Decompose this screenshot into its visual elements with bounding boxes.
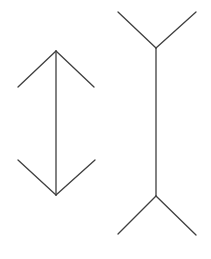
canvas-background bbox=[0, 0, 211, 259]
muller-lyer-diagram bbox=[0, 0, 211, 259]
figure-canvas bbox=[0, 0, 211, 259]
